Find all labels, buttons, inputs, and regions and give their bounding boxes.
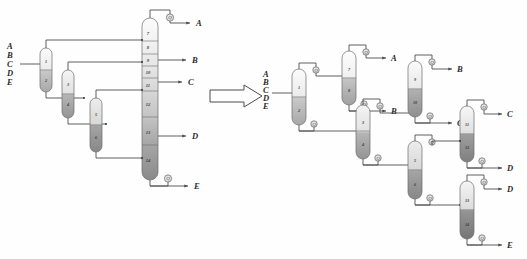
right-col-5-to-col-11 [432,141,460,145]
right-product-b1-label: B [390,106,397,116]
left-product-e-label: E [193,181,200,191]
right-col-3-segment: 3 [361,120,364,125]
right-column-13-14: 13 14 [460,181,474,239]
left-feed-labels: A B C D E [6,41,13,87]
left-diagram: A B C D E 7 8 9 10 11 12 13 14 [6,10,202,191]
right-col-4-segment: 4 [361,142,364,147]
right-col-12-segment: 12 [465,145,469,150]
reboiler-glyph-14: Q [480,236,484,241]
col-2-segment: 2 [44,78,47,83]
left-column-5-6: 5 6 [90,98,102,152]
right-column-5-6: 5 6 [408,141,422,199]
right-column-11-12: 11 12 [460,106,474,162]
reboiler-glyph-12: Q [480,159,484,164]
left-column-3-4: 3 4 [62,70,74,118]
left-feed-label-e: E [6,77,13,87]
condenser-glyph: Q [168,15,172,20]
reboiler-glyph-10: Q [428,114,432,119]
col-3-vapor-to-main [68,62,142,70]
condenser-glyph-3: Q [378,104,382,109]
condenser-glyph-7: Q [364,50,368,55]
col-3-segment: 3 [66,82,69,87]
main-segment-11: 11 [146,83,150,88]
transform-arrow [210,85,262,107]
main-segment-13: 13 [146,130,151,135]
right-product-d-label: D [506,184,513,194]
main-segment-12: 12 [146,102,151,107]
right-feed-labels: A B C D E [262,69,269,111]
right-col-5-segment: 5 [414,158,416,163]
condenser-glyph-1: Q [314,68,318,73]
left-main-column: 7 8 9 10 11 12 13 14 [142,18,158,180]
right-column-1-2: 1 2 [292,69,306,125]
right-col-1-to-col-7 [316,73,346,76]
col-1-segment: 1 [45,59,47,64]
main-segment-14: 14 [146,158,151,163]
right-col-1-segment: 1 [298,85,300,90]
right-product-c-line [484,110,502,114]
right-product-b-label: B [456,64,463,74]
left-product-a-line [170,21,190,23]
right-col-13-segment: 13 [465,198,469,203]
left-column-1-2: 1 2 [40,48,52,92]
right-col-3-4-shell [356,105,370,159]
reboiler-glyph-4: Q [376,156,380,161]
condenser-glyph-9: Q [430,60,434,65]
condenser-glyph-11: Q [482,105,486,110]
col-5-vapor-to-main [96,90,142,98]
reboiler-glyph-6: Q [428,196,432,201]
process-flow-diagram: A B C D E 7 8 9 10 11 12 13 14 [0,0,527,259]
right-product-a-line [366,55,386,58]
right-column-3-4: 3 4 [356,105,370,159]
left-product-a-label: A [195,18,202,28]
col-1-vapor-to-main [46,40,142,48]
left-product-b-label: B [191,55,198,65]
reboiler-glyph: Q [166,176,170,181]
right-col-11-segment: 11 [465,122,469,127]
right-product-b-line [432,65,452,69]
right-column-9-10: 9 10 [408,61,422,117]
col-6-liquid-to-main [96,152,142,158]
right-product-d1-label: D [506,163,513,173]
condenser-glyph-13: Q [482,180,486,185]
right-product-e-label: E [506,240,513,250]
left-product-d-label: D [191,131,198,141]
right-feed-label-e: E [262,101,269,111]
right-product-c-label: C [507,109,513,119]
right-column-7-8: 7 8 [342,51,356,105]
right-product-a-label: A [390,53,397,63]
col-4-segment: 4 [66,102,69,107]
col-5-segment: 5 [95,112,97,117]
right-product-d-line [484,185,502,189]
reboiler-glyph-1: Q [312,122,316,127]
main-column-shell [142,18,158,180]
left-product-c-label: C [188,77,194,87]
main-segment-10: 10 [146,70,151,75]
right-diagram: A B C D E 1 2 Q Q 7 8 Q [262,45,513,250]
diagram-canvas: A B C D E 7 8 9 10 11 12 13 14 [0,0,527,259]
right-col-14-segment: 14 [465,222,469,227]
right-col-2-segment: 2 [297,108,300,113]
